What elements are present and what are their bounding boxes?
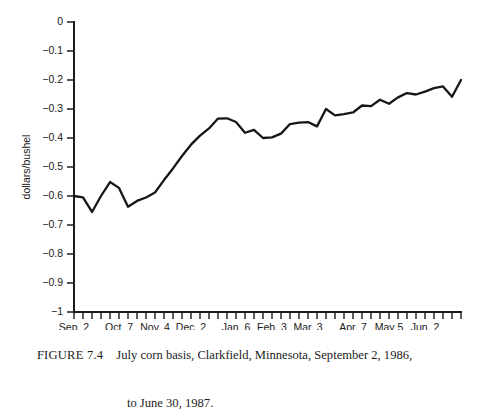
y-tick-label: −1 [51, 305, 63, 317]
figure-caption: FIGURE 7.4July corn basis, Clarkfield, M… [18, 331, 468, 414]
x-tick-label: Feb. 3 [257, 321, 287, 330]
y-tick-label: −0.3 [42, 102, 63, 114]
x-tick-label: Dec. 2 [176, 321, 207, 330]
x-axis: Sep. 2Oct. 7Nov. 4Dec. 2Jan. 6Feb. 3Mar.… [59, 312, 461, 330]
x-tick-label: Nov. 4 [140, 321, 170, 330]
y-tick-label: −0.5 [42, 160, 63, 172]
x-tick-label: Sep. 2 [59, 321, 90, 330]
y-tick-label: −0.1 [42, 44, 63, 56]
x-tick-label: Apr. 7 [339, 321, 367, 330]
caption-line-one: July corn basis, Clarkfield, Minnesota, … [116, 348, 412, 362]
figure-number: FIGURE 7.4 [37, 348, 103, 362]
y-axis-label: dollars/bushel [20, 135, 32, 200]
y-tick-label: 0 [57, 15, 63, 27]
x-tick-label: Jan. 6 [222, 321, 251, 330]
x-tick-label: Jun. 2 [411, 321, 440, 330]
y-tick-label: −0.6 [42, 189, 63, 201]
y-tick-label: −0.8 [42, 247, 63, 259]
x-tick-label: Mar. 3 [293, 321, 322, 330]
y-tick-label: −0.4 [42, 131, 63, 143]
caption-line-two: to June 30, 1987. [127, 396, 213, 410]
y-tick-label: −0.9 [42, 276, 63, 288]
chart-plot-area: 0−0.1−0.2−0.3−0.4−0.5−0.6−0.7−0.8−0.9−1 … [0, 0, 483, 330]
y-axis: 0−0.1−0.2−0.3−0.4−0.5−0.6−0.7−0.8−0.9−1 [42, 15, 74, 317]
x-tick-label: Oct. 7 [105, 321, 133, 330]
y-axis-title: dollars/bushel [20, 135, 32, 200]
y-tick-label: −0.7 [42, 218, 63, 230]
basis-line [74, 80, 461, 212]
y-tick-label: −0.2 [42, 73, 63, 85]
data-series [74, 80, 461, 212]
line-chart: 0−0.1−0.2−0.3−0.4−0.5−0.6−0.7−0.8−0.9−1 … [0, 0, 483, 330]
x-tick-label: May 5 [375, 321, 404, 330]
